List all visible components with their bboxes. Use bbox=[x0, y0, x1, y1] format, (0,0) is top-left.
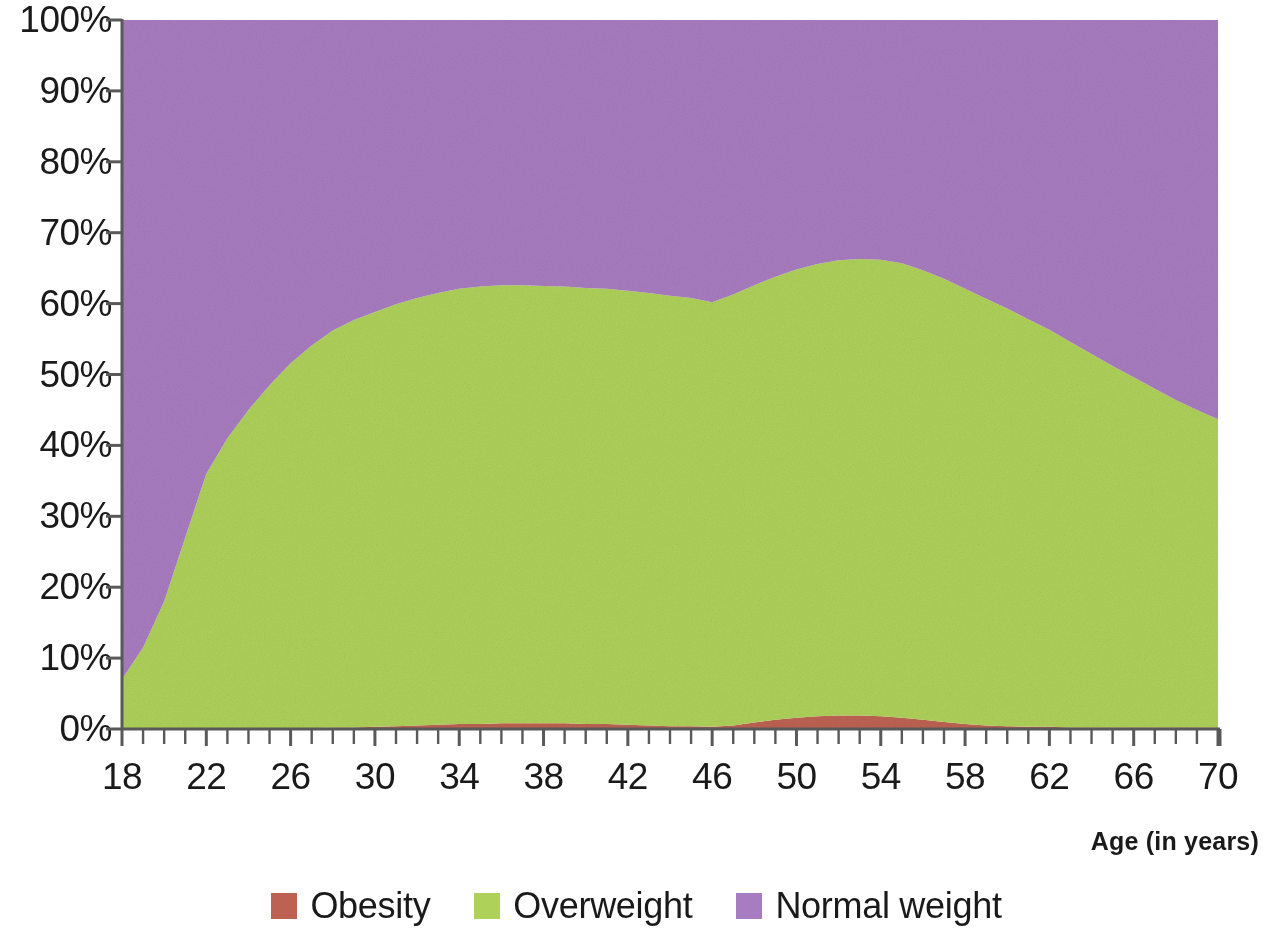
x-axis-tick-label: 46 bbox=[692, 758, 732, 795]
x-axis-tick-label: 26 bbox=[271, 758, 311, 795]
x-axis-tick-label: 42 bbox=[608, 758, 648, 795]
legend-swatch-icon bbox=[474, 893, 500, 919]
stacked-area-chart: 100%90%80%70%60%50%40%30%20%10%0% 182226… bbox=[0, 0, 1273, 935]
x-axis-tick-label: 62 bbox=[1029, 758, 1069, 795]
legend-swatch-icon bbox=[736, 893, 762, 919]
x-axis-tick-label: 70 bbox=[1198, 758, 1238, 795]
chart-legend: ObesityOverweightNormal weight bbox=[0, 888, 1273, 924]
legend-label: Overweight bbox=[513, 888, 692, 924]
legend-item[interactable]: Obesity bbox=[271, 888, 430, 924]
legend-swatch-icon bbox=[271, 893, 297, 919]
legend-item[interactable]: Normal weight bbox=[736, 888, 1001, 924]
x-axis-tick-label: 50 bbox=[776, 758, 816, 795]
x-axis-tick-label: 58 bbox=[945, 758, 985, 795]
legend-label: Normal weight bbox=[775, 888, 1001, 924]
x-axis-tick-label: 38 bbox=[523, 758, 563, 795]
legend-label: Obesity bbox=[310, 888, 430, 924]
x-axis-tick-labels: 1822263034384246505458626670 bbox=[0, 748, 1273, 798]
x-axis-tick-label: 66 bbox=[1114, 758, 1154, 795]
x-axis-title: Age (in years) bbox=[1091, 827, 1259, 856]
x-axis-tick-label: 18 bbox=[102, 758, 142, 795]
x-axis-tick-label: 34 bbox=[439, 758, 479, 795]
paper-grain-texture bbox=[122, 20, 1218, 730]
legend-item[interactable]: Overweight bbox=[474, 888, 692, 924]
x-axis-tick-label: 54 bbox=[861, 758, 901, 795]
x-axis-tick-label: 22 bbox=[186, 758, 226, 795]
x-axis-tick-label: 30 bbox=[355, 758, 395, 795]
